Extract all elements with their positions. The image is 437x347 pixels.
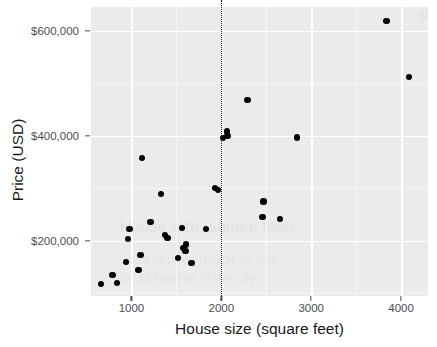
data-point bbox=[294, 134, 300, 140]
y-axis-title: Price (USD) bbox=[9, 60, 27, 260]
data-point bbox=[158, 191, 164, 197]
data-point bbox=[135, 267, 141, 273]
x-axis-tick-label: 3000 bbox=[298, 302, 324, 314]
data-point bbox=[383, 18, 389, 24]
data-point bbox=[182, 248, 188, 254]
data-point bbox=[183, 241, 189, 247]
data-point bbox=[215, 187, 221, 193]
data-point bbox=[109, 272, 115, 278]
data-point bbox=[277, 216, 283, 222]
gridline-minor-vertical bbox=[176, 7, 177, 296]
data-point bbox=[164, 235, 170, 241]
gridline-major-vertical bbox=[401, 7, 403, 296]
x-axis-tick-mark bbox=[400, 296, 401, 301]
plot-panel: House size (square feet)$USDplot of pric… bbox=[91, 7, 428, 296]
reference-line-2000sqft bbox=[221, 0, 222, 296]
data-point bbox=[260, 198, 266, 204]
y-axis-tick-label: $600,000 bbox=[31, 25, 79, 37]
gridline-major-horizontal bbox=[91, 241, 428, 243]
x-axis-tick-label: 2000 bbox=[209, 302, 235, 314]
data-point bbox=[147, 219, 153, 225]
gridline-major-horizontal bbox=[91, 136, 428, 138]
data-point bbox=[137, 252, 143, 258]
y-axis-tick-label: $400,000 bbox=[31, 130, 79, 142]
data-point bbox=[188, 260, 194, 266]
gridline-major-vertical bbox=[131, 7, 133, 296]
background-ghost-text: plot of price (USD) vs size bbox=[128, 252, 278, 267]
x-axis-title: House size (square feet) bbox=[91, 320, 428, 338]
gridline-major-vertical bbox=[311, 7, 313, 296]
x-axis-tick-label: 1000 bbox=[119, 302, 145, 314]
x-axis-tick-mark bbox=[311, 296, 312, 301]
data-point bbox=[114, 280, 120, 286]
data-point bbox=[98, 281, 104, 287]
y-axis-tick-mark bbox=[85, 135, 90, 136]
data-point bbox=[123, 259, 129, 265]
data-point bbox=[175, 255, 181, 261]
gridline-minor-horizontal bbox=[91, 83, 428, 84]
x-axis-tick-mark bbox=[131, 296, 132, 301]
gridline-major-horizontal bbox=[91, 31, 428, 33]
gridline-minor-vertical bbox=[356, 7, 357, 296]
x-axis-tick-label: 4000 bbox=[388, 302, 414, 314]
data-point bbox=[244, 97, 250, 103]
y-axis-tick-mark bbox=[85, 30, 90, 31]
gridline-minor-horizontal bbox=[91, 188, 428, 189]
data-point bbox=[179, 225, 185, 231]
data-point bbox=[139, 155, 145, 161]
data-point bbox=[224, 133, 230, 139]
data-point bbox=[203, 226, 209, 232]
gridline-minor-horizontal bbox=[91, 293, 428, 294]
gridline-minor-vertical bbox=[266, 7, 267, 296]
data-point bbox=[406, 74, 412, 80]
y-axis-tick-mark bbox=[85, 240, 90, 241]
x-axis-tick-mark bbox=[221, 296, 222, 301]
y-axis-tick-label: $200,000 bbox=[31, 235, 79, 247]
data-point bbox=[259, 214, 265, 220]
scatter-plot-figure: House size (square feet)$USDplot of pric… bbox=[0, 0, 437, 347]
background-ghost-text: $USD bbox=[418, 8, 428, 24]
